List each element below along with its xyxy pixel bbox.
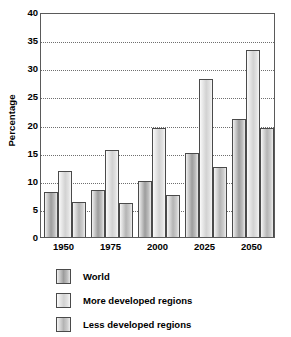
x-tick-label: 2050: [241, 241, 262, 252]
bar-group: [41, 14, 88, 237]
chart-legend: WorldMore developed regionsLess develope…: [56, 264, 286, 336]
y-tick-label: 5: [22, 205, 38, 215]
legend-swatch: [56, 293, 71, 308]
x-tick-label: 1975: [100, 241, 121, 252]
x-tick-label: 2000: [147, 241, 168, 252]
bar: [138, 181, 152, 237]
legend-swatch: [56, 317, 71, 332]
bar: [91, 190, 105, 237]
y-tick-label: 20: [22, 121, 38, 131]
y-axis-title: Percentage: [0, 0, 22, 240]
y-tick-label: 15: [22, 149, 38, 159]
bar-group: [88, 14, 135, 237]
bar-chart-figure: Percentage 0510152025303540 195019752000…: [0, 0, 291, 337]
y-tick-label: 35: [22, 36, 38, 46]
legend-swatch: [56, 269, 71, 284]
y-tick-label: 25: [22, 93, 38, 103]
bar-group: [135, 14, 182, 237]
bar: [185, 153, 199, 237]
y-tick-label: 40: [22, 8, 38, 18]
bar: [232, 119, 246, 237]
bar: [58, 171, 72, 237]
legend-item: More developed regions: [56, 288, 286, 312]
bar: [199, 79, 213, 237]
legend-item: World: [56, 264, 286, 288]
bar: [119, 203, 133, 237]
bar-group: [229, 14, 276, 237]
bar: [44, 192, 58, 237]
x-axis-tick-labels: 19501975200020252050: [40, 241, 275, 257]
bar: [260, 128, 274, 237]
bar: [213, 167, 227, 237]
bar: [246, 50, 260, 237]
bar: [105, 150, 119, 237]
bar: [72, 202, 86, 237]
plot-area: [40, 13, 275, 238]
legend-label: Less developed regions: [83, 319, 191, 330]
bar: [152, 128, 166, 237]
x-tick-label: 1950: [53, 241, 74, 252]
y-axis-title-text: Percentage: [6, 94, 17, 146]
y-tick-label: 0: [22, 233, 38, 243]
bar: [166, 195, 180, 237]
x-tick-label: 2025: [194, 241, 215, 252]
bar-group: [182, 14, 229, 237]
bars-layer: [41, 14, 274, 237]
y-tick-label: 10: [22, 177, 38, 187]
legend-item: Less developed regions: [56, 312, 286, 336]
legend-label: More developed regions: [83, 295, 192, 306]
y-axis-tick-labels: 0510152025303540: [22, 8, 38, 238]
legend-label: World: [83, 271, 110, 282]
y-tick-label: 30: [22, 65, 38, 75]
